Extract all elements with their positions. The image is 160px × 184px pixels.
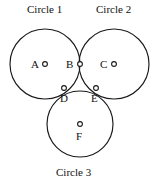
circle-1-title: Circle 1 (27, 4, 62, 15)
point-marker-a (43, 62, 48, 67)
point-marker-d (62, 86, 67, 91)
point-label-d: D (60, 93, 68, 104)
point-label-a: A (31, 59, 39, 70)
point-label-f: F (76, 131, 82, 142)
point-label-c: C (100, 59, 107, 70)
figure-container: Circle 1 Circle 2 Circle 3 A B C D E F (0, 0, 160, 184)
point-marker-c (112, 62, 117, 67)
point-marker-e (94, 86, 99, 91)
point-marker-b (78, 62, 83, 67)
circle-2-title: Circle 2 (96, 4, 131, 15)
tangent-circles-diagram (0, 0, 160, 184)
point-label-b: B (66, 59, 73, 70)
circle-3-title: Circle 3 (56, 167, 91, 178)
point-marker-f (78, 122, 83, 127)
point-label-e: E (91, 93, 98, 104)
